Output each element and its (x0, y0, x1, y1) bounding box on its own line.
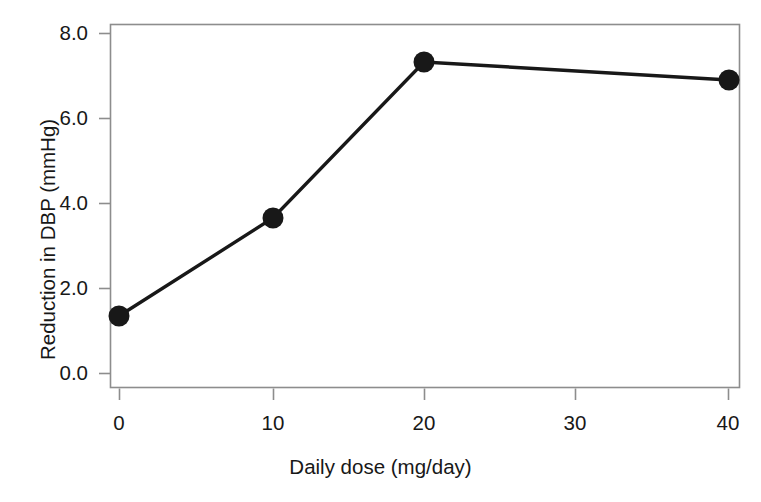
x-axis-tick-label-30: 30 (564, 411, 587, 435)
dose-response-figure: 8.0 6.0 4.0 2.0 0.0 0 10 20 30 40 Daily … (0, 0, 761, 502)
y-axis-title: Reduction in DBP (mmHg) (36, 119, 60, 360)
y-axis-ticks (99, 34, 111, 374)
x-axis-tick-label-10: 10 (262, 411, 285, 435)
y-axis-tick-label-0: 0.0 (32, 361, 88, 385)
plot-frame (111, 25, 740, 388)
data-point-dose-10 (263, 208, 284, 229)
x-axis-tick-label-0: 0 (113, 411, 124, 435)
x-axis-tick-label-20: 20 (413, 411, 436, 435)
data-point-dose-40 (719, 70, 740, 91)
y-axis-tick-label-8: 8.0 (32, 21, 88, 45)
x-axis-ticks (120, 389, 729, 401)
x-axis-title: Daily dose (mg/day) (0, 455, 761, 479)
x-axis-tick-label-40: 40 (717, 411, 740, 435)
data-point-dose-20 (414, 52, 435, 73)
data-point-markers (109, 52, 740, 327)
data-line-reduction-in-dbp (119, 62, 729, 316)
data-point-dose-0 (109, 306, 130, 327)
